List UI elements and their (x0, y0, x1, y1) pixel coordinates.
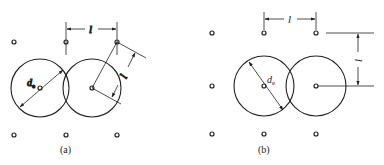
tube-marker (314, 31, 318, 35)
tube-marker (64, 133, 68, 137)
tube-marker (314, 84, 318, 88)
tube-marker (12, 40, 16, 44)
tube-markers-a (12, 40, 119, 137)
panel-a: l de l (a) (11, 22, 146, 156)
tube-marker (12, 133, 16, 137)
tube-marker (210, 84, 214, 88)
panel-b: l de l (b) (210, 12, 374, 156)
figure-canvas: l de l (a) (0, 0, 384, 165)
caption-b: (b) (258, 144, 270, 156)
diameter-arrow-a (20, 70, 63, 107)
diameter-arrow-b (249, 62, 283, 110)
pitch-label-b: l (352, 59, 364, 62)
tube-marker (115, 133, 119, 137)
tube-marker (262, 132, 266, 136)
tube-marker (210, 31, 214, 35)
diameter-label-b: de (267, 74, 275, 87)
spacing-label-a: l (89, 23, 92, 35)
tube-marker (314, 132, 318, 136)
tube-marker (210, 132, 214, 136)
tube-marker (262, 31, 266, 35)
diameter-label-a: de (27, 77, 35, 90)
caption-a: (a) (60, 144, 71, 156)
spacing-label-b: l (288, 13, 291, 25)
pitch-dimension-b (318, 33, 374, 86)
